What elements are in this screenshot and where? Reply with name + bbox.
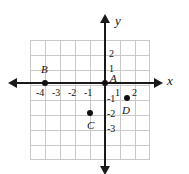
grid-line-horizontal: [30, 159, 150, 160]
x-tick-label-2: 2: [132, 88, 137, 98]
data-point-label-d: D: [122, 105, 130, 116]
x-axis-arrow-right-icon: [154, 78, 163, 88]
data-point-c: [87, 110, 93, 116]
x-axis-label: x: [167, 74, 173, 87]
data-point-label-a: A: [110, 73, 117, 84]
x-axis-arrow-left-icon: [8, 78, 17, 88]
x-tick-label--3: -3: [52, 88, 60, 98]
grid-line-horizontal: [30, 145, 150, 146]
y-tick-label-2: 2: [109, 49, 114, 59]
grid-line-horizontal: [30, 40, 150, 41]
data-point-b: [42, 80, 48, 86]
data-point-a: [102, 80, 108, 86]
x-tick-label-1: 1: [115, 88, 120, 98]
grid: [30, 40, 150, 160]
data-point-d: [124, 95, 130, 101]
y-tick-label--1: -1: [107, 94, 115, 104]
y-axis-arrow-up-icon: [100, 14, 110, 23]
x-axis: [16, 82, 156, 84]
x-tick-label--4: -4: [36, 88, 44, 98]
coordinate-plane-figure: y x -4 -3 -2 -1 1 2 2 1 -1 -2 -3 A B C D: [0, 0, 189, 174]
grid-line-horizontal: [30, 55, 150, 56]
data-point-label-b: B: [41, 64, 48, 75]
y-tick-label--2: -2: [107, 109, 115, 119]
grid-line-horizontal: [30, 85, 150, 86]
x-tick-label--1: -1: [84, 88, 92, 98]
x-tick-label--2: -2: [68, 88, 76, 98]
y-axis-arrow-down-icon: [100, 166, 110, 174]
grid-line-horizontal: [30, 70, 150, 71]
y-axis: [104, 22, 106, 168]
y-axis-label: y: [115, 14, 121, 27]
grid-line-horizontal: [30, 100, 150, 101]
data-point-label-c: C: [87, 120, 94, 131]
y-tick-label--3: -3: [107, 124, 115, 134]
